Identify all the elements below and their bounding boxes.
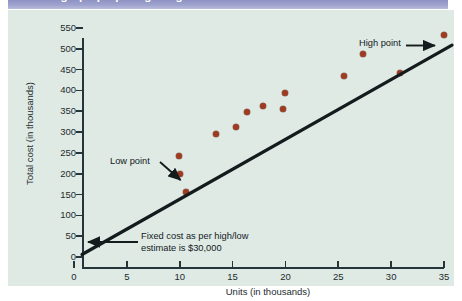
x-tick-label: 10 <box>166 271 194 282</box>
y-tick <box>76 194 83 196</box>
x-tick-label: 5 <box>113 271 141 282</box>
annotation-fixed-cost: Fixed cost as per high/low estimate is $… <box>141 231 271 254</box>
data-point <box>360 51 366 57</box>
y-tick <box>76 235 83 237</box>
panel-right-margin <box>454 10 462 286</box>
data-point <box>282 90 288 96</box>
x-tick-label: 25 <box>324 271 352 282</box>
y-tick <box>76 110 83 112</box>
data-point <box>244 109 250 115</box>
x-axis-title: Units (in thousands) <box>168 286 368 297</box>
x-tick <box>179 261 181 268</box>
annotation-high-point: High point <box>359 38 401 50</box>
y-tick <box>76 27 83 29</box>
x-tick <box>443 261 445 268</box>
y-axis-title: Total cost (in thousands) <box>24 59 35 209</box>
x-tick-label: 30 <box>377 271 405 282</box>
chart-panel: 050100150200250300350400450500550 051015… <box>8 10 454 286</box>
data-point <box>397 70 403 76</box>
y-tick <box>76 48 83 50</box>
x-tick <box>285 261 287 268</box>
x-tick <box>337 261 339 268</box>
annotation-fixed-cost-line2: estimate is $30,000 <box>141 243 222 253</box>
y-tick <box>76 131 83 133</box>
data-point <box>176 153 182 159</box>
trend-line <box>82 45 452 254</box>
x-tick <box>390 261 392 268</box>
x-tick-label: 15 <box>219 271 247 282</box>
data-point <box>280 106 286 112</box>
data-point <box>213 131 219 137</box>
y-tick <box>76 90 83 92</box>
data-point <box>260 103 266 109</box>
data-point-low-point <box>177 171 183 177</box>
data-point <box>233 124 239 130</box>
annotation-low-point: Low point <box>110 156 150 168</box>
y-tick <box>76 173 83 175</box>
y-tick <box>76 152 83 154</box>
y-tick <box>76 256 83 258</box>
data-point <box>183 189 189 195</box>
x-tick-label: 0 <box>60 271 88 282</box>
x-tick <box>126 261 128 268</box>
x-tick <box>73 261 75 268</box>
data-point <box>341 73 347 79</box>
annotation-fixed-cost-line1: Fixed cost as per high/low <box>141 231 248 241</box>
y-tick <box>76 69 83 71</box>
header-band: Scattergraph preparing a high/low estima… <box>8 0 448 9</box>
x-tick <box>232 261 234 268</box>
data-point-high-point <box>441 32 447 38</box>
x-tick-label: 20 <box>271 271 299 282</box>
y-tick <box>76 215 83 217</box>
chart-header-title: Scattergraph preparing a high/low estima… <box>20 0 265 2</box>
